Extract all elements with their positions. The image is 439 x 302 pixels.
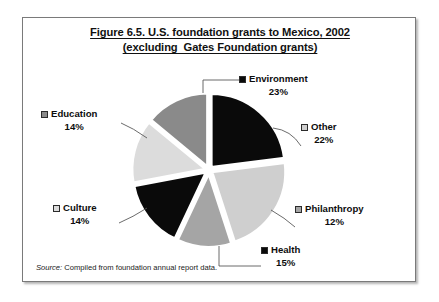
pie-chart-svg <box>23 18 417 283</box>
slice-label-environment: Environment 23% <box>239 73 308 98</box>
source-note: Source: Compiled from foundation annual … <box>36 263 217 272</box>
pie-slice-environment[interactable] <box>211 94 284 168</box>
slice-label-health-text: Health <box>271 244 300 257</box>
slice-value-education: 14% <box>41 121 97 134</box>
swatch-environment-icon <box>239 76 246 83</box>
slice-label-other-text: Other <box>311 121 337 134</box>
swatch-philanthropy-icon <box>295 206 302 213</box>
slice-label-health: Health 15% <box>261 244 300 269</box>
slice-label-philanthropy: Philanthropy 12% <box>295 203 364 228</box>
leader-line-philanthropy <box>271 210 295 227</box>
slice-label-culture-text: Culture <box>63 202 97 215</box>
figure-container: Figure 6.5. U.S. foundation grants to Me… <box>0 0 439 302</box>
slice-label-environment-text: Environment <box>249 73 308 86</box>
pie-chart-plot <box>23 18 417 283</box>
source-note-text: Compiled from foundation annual report d… <box>64 263 217 272</box>
leader-line-culture <box>119 208 147 223</box>
slice-value-health: 15% <box>261 257 300 270</box>
pie-slice-group <box>132 93 286 247</box>
leader-line-health <box>219 246 261 266</box>
slice-value-philanthropy: 12% <box>295 216 364 229</box>
slice-label-education: Education 14% <box>41 108 97 133</box>
slice-value-other: 22% <box>301 134 337 147</box>
leader-line-environment <box>203 80 239 93</box>
slice-value-culture: 14% <box>53 215 97 228</box>
swatch-health-icon <box>261 247 268 254</box>
slice-value-environment: 23% <box>239 86 308 99</box>
swatch-education-icon <box>41 111 48 118</box>
slice-label-education-text: Education <box>51 108 97 121</box>
slice-label-culture: Culture 14% <box>53 202 97 227</box>
figure-frame: Figure 6.5. U.S. foundation grants to Me… <box>22 17 416 282</box>
swatch-culture-icon <box>53 205 60 212</box>
source-note-key: Source: <box>36 263 62 272</box>
slice-label-other: Other 22% <box>301 121 337 146</box>
swatch-other-icon <box>301 124 308 131</box>
slice-label-philanthropy-text: Philanthropy <box>305 203 364 216</box>
